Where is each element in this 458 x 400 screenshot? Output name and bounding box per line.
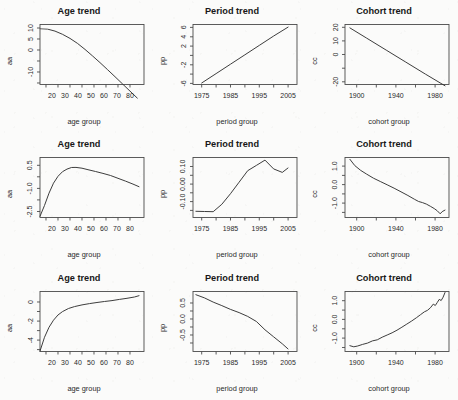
panel-title: Age trend <box>58 273 101 283</box>
svg-text:40: 40 <box>74 92 82 99</box>
x-tick-labels: 1975 1985 1995 2005 <box>194 225 296 232</box>
panel-title: Cohort trend <box>356 139 412 149</box>
svg-text:1.0: 1.0 <box>331 295 338 305</box>
panel-title: Age trend <box>58 139 101 149</box>
x-axis-ticks <box>357 351 435 354</box>
svg-text:1995: 1995 <box>251 359 267 366</box>
svg-text:80: 80 <box>126 225 134 232</box>
x-tick-labels: 20 30 40 50 60 70 80 <box>48 92 134 99</box>
panel-svg: Age trend aa age group 20 30 40 50 60 70… <box>0 0 153 133</box>
svg-text:0.10: 0.10 <box>179 160 186 174</box>
svg-text:-10: -10 <box>27 67 34 77</box>
panel-cohort-trend-row2: Cohort trend cc cohort group 1900 1940 1… <box>305 133 458 266</box>
y-axis-ticks <box>190 27 193 83</box>
x-axis-label: age group <box>67 384 100 393</box>
svg-text:70: 70 <box>113 359 121 366</box>
svg-text:-2.5: -2.5 <box>26 206 33 218</box>
svg-text:70: 70 <box>113 92 121 99</box>
svg-text:-0.5: -0.5 <box>179 328 186 340</box>
data-series-line <box>350 292 445 346</box>
data-series-line <box>201 27 287 83</box>
y-tick-labels: 10 5 0 -10 <box>27 24 34 77</box>
y-tick-labels: 0 -2 -4 <box>27 300 34 343</box>
panel-title: Cohort trend <box>356 273 412 283</box>
plot-area <box>40 158 144 218</box>
svg-text:2005: 2005 <box>280 359 296 366</box>
panel-svg: Age trend aa age group 20 30 40 50 60 70… <box>0 133 153 266</box>
y-axis-ticks <box>190 167 193 211</box>
svg-text:0.0: 0.0 <box>331 180 338 190</box>
x-tick-labels: 1975 1985 1995 2005 <box>194 92 296 99</box>
panel-cohort-trend-row3: Cohort trend cc cohort group 1900 1940 1… <box>305 267 458 400</box>
svg-text:-6: -6 <box>180 80 187 86</box>
panel-svg: Period trend pp period group 1975 1985 1… <box>153 133 306 266</box>
y-axis-label: pp <box>158 190 167 198</box>
y-axis-ticks <box>190 303 193 343</box>
plot-area <box>40 25 144 99</box>
figure-panel-grid: Age trend aa age group 20 30 40 50 60 70… <box>0 0 458 400</box>
data-series-line <box>195 294 287 348</box>
panel-title: Cohort trend <box>356 6 412 16</box>
panel-period-trend-row2: Period trend pp period group 1975 1985 1… <box>153 133 306 266</box>
panel-age-trend-row3: Age trend aa age group 20 30 40 50 60 70… <box>0 267 153 400</box>
y-tick-labels: 0.5 0.0 -0.5 <box>179 298 186 341</box>
x-tick-labels: 1900 1940 1980 <box>349 359 443 366</box>
svg-text:6: 6 <box>180 25 187 29</box>
svg-text:-1.0: -1.0 <box>331 332 338 344</box>
y-tick-labels: 0.5 -1.0 -2.5 <box>26 161 33 218</box>
svg-text:70: 70 <box>113 225 121 232</box>
svg-text:2: 2 <box>180 44 187 48</box>
svg-text:-4: -4 <box>27 336 34 342</box>
x-axis-label: age group <box>67 117 100 126</box>
svg-text:30: 30 <box>61 92 69 99</box>
data-series-line <box>40 29 137 99</box>
svg-text:1975: 1975 <box>194 359 210 366</box>
svg-text:-2: -2 <box>180 62 187 68</box>
svg-text:1995: 1995 <box>251 225 267 232</box>
svg-text:1975: 1975 <box>194 225 210 232</box>
x-axis-ticks <box>201 218 287 221</box>
svg-text:1940: 1940 <box>388 359 404 366</box>
plot-area <box>193 291 297 351</box>
y-tick-labels: 20 10 0 -20 <box>332 23 339 87</box>
svg-text:30: 30 <box>61 359 69 366</box>
svg-text:5: 5 <box>27 37 34 41</box>
plot-area <box>345 158 449 218</box>
panel-svg: Cohort trend cc cohort group 1900 1940 1… <box>305 267 458 400</box>
svg-text:0.5: 0.5 <box>26 161 33 171</box>
y-axis-ticks <box>342 300 345 347</box>
y-tick-labels: 6 4 2 -2 -6 <box>180 25 187 86</box>
svg-text:-1.0: -1.0 <box>331 197 338 209</box>
y-axis-label: aa <box>5 323 14 332</box>
y-axis-label: pp <box>158 57 167 65</box>
plot-area <box>345 291 449 351</box>
svg-text:1980: 1980 <box>428 359 444 366</box>
svg-text:1940: 1940 <box>388 92 404 99</box>
panel-title: Age trend <box>58 6 101 16</box>
x-axis-label: age group <box>67 250 100 259</box>
x-axis-label: cohort group <box>368 384 409 393</box>
svg-text:-1.0: -1.0 <box>26 183 33 195</box>
svg-text:2005: 2005 <box>280 225 296 232</box>
svg-text:1900: 1900 <box>349 92 365 99</box>
panel-svg: Period trend pp period group 1975 1985 1… <box>153 267 306 400</box>
svg-text:10: 10 <box>332 37 339 45</box>
y-tick-labels: 1.0 0.0 -1.0 <box>331 295 338 343</box>
svg-text:10: 10 <box>27 24 34 32</box>
svg-text:60: 60 <box>100 225 108 232</box>
svg-text:1995: 1995 <box>251 92 267 99</box>
x-axis-ticks <box>46 218 130 221</box>
data-series-line <box>350 28 445 86</box>
svg-text:1.0: 1.0 <box>331 161 338 171</box>
data-series-line <box>40 168 139 217</box>
panel-period-trend-row3: Period trend pp period group 1975 1985 1… <box>153 267 306 400</box>
panel-cohort-trend-row1: Cohort trend cc cohort group 1900 1940 1… <box>305 0 458 133</box>
y-axis-ticks <box>342 166 345 212</box>
panel-svg: Cohort trend cc cohort group 1900 1940 1… <box>305 0 458 133</box>
x-axis-ticks <box>46 351 130 354</box>
svg-text:1985: 1985 <box>222 225 238 232</box>
panel-svg: Cohort trend cc cohort group 1900 1940 1… <box>305 133 458 266</box>
svg-text:0.0: 0.0 <box>179 314 186 324</box>
panel-svg: Age trend aa age group 20 30 40 50 60 70… <box>0 267 153 400</box>
data-series-line <box>195 160 287 212</box>
